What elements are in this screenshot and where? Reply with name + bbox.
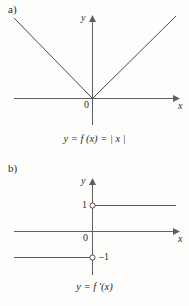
y-tick-label-one: 1: [82, 199, 87, 210]
figure-page: a) y x 0 y = f (x) = | x | b): [0, 0, 189, 306]
panel-a: a) y x 0 y = f (x) = | x |: [0, 0, 189, 155]
y-axis-label-b: y: [81, 175, 85, 186]
panel-a-plot: [0, 0, 189, 130]
y-axis-arrowhead-b: [89, 178, 96, 185]
panel-b-plot: [0, 155, 189, 285]
y-tick-label-negative-one: –1: [99, 251, 109, 262]
open-circle-at-negative-one: [90, 255, 95, 260]
x-axis-label-a: x: [178, 100, 182, 111]
panel-b-caption: y = f ′(x): [0, 281, 189, 292]
x-axis-label-b: x: [178, 233, 182, 244]
abs-value-curve: [14, 16, 176, 99]
panel-b: b) y x 1 –1 0: [0, 155, 189, 306]
panel-a-caption: y = f (x) = | x |: [0, 133, 189, 144]
origin-label-a: 0: [84, 99, 89, 110]
y-axis-label-a: y: [81, 12, 85, 23]
origin-label-b: 0: [83, 232, 88, 243]
y-axis-arrowhead-a: [89, 15, 96, 22]
open-circle-at-one: [90, 203, 95, 208]
